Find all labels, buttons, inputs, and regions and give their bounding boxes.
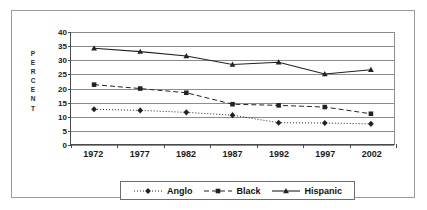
x-axis-tick-mark — [210, 144, 211, 148]
data-point-marker-square — [184, 90, 189, 95]
y-axis-tick-label: 20 — [58, 84, 67, 93]
data-point-marker-diamond — [137, 107, 143, 113]
x-axis-tick-label: 1982 — [176, 149, 196, 159]
x-axis-tick-mark — [350, 144, 351, 148]
data-point-marker-square — [138, 86, 143, 91]
y-axis-title-letter: E — [26, 85, 40, 94]
legend-marker-square-icon — [203, 186, 233, 196]
y-axis-title-letter: T — [26, 104, 40, 113]
data-point-marker-diamond — [230, 112, 236, 118]
legend-marker-triangle-icon — [271, 186, 301, 196]
x-axis-tick-mark — [117, 144, 118, 148]
x-axis-tick-label: 2002 — [362, 149, 382, 159]
chart-frame: PERCENT 0510152025303540 197219771982198… — [11, 10, 415, 198]
data-point-marker-triangle — [368, 67, 374, 72]
series-black — [92, 82, 373, 116]
legend-marker-diamond-icon — [133, 186, 163, 196]
chart-legend: AngloBlackHispanic — [120, 181, 355, 200]
y-axis-tick-label: 15 — [58, 98, 67, 107]
series-plot — [71, 32, 394, 144]
y-axis-title: PERCENT — [26, 49, 40, 113]
x-axis-tick-mark — [257, 144, 258, 148]
data-point-marker-square — [322, 105, 327, 110]
x-axis-tick-label: 1992 — [269, 149, 289, 159]
data-point-marker-square — [276, 103, 281, 108]
data-point-marker-diamond — [276, 120, 282, 126]
x-axis-tick-mark — [396, 144, 397, 148]
y-axis-tick-label: 10 — [58, 112, 67, 121]
legend-entry-anglo[interactable]: Anglo — [133, 186, 193, 196]
data-point-marker-diamond — [368, 121, 374, 127]
x-axis-tick-mark — [71, 144, 72, 148]
y-axis-title-letter: P — [26, 49, 40, 58]
series-line — [94, 85, 371, 114]
x-axis-tick-label: 1972 — [83, 149, 103, 159]
x-axis-tick-label: 1977 — [130, 149, 150, 159]
y-axis-title-letter: E — [26, 58, 40, 67]
series-anglo — [91, 106, 374, 127]
y-axis-tick-label: 0 — [63, 141, 67, 150]
data-point-marker-square — [369, 111, 374, 116]
data-point-marker-diamond — [91, 106, 97, 112]
data-point-marker-square — [215, 188, 220, 193]
series-hispanic — [91, 45, 374, 76]
y-axis-title-letter: N — [26, 94, 40, 103]
data-point-marker-diamond — [145, 187, 151, 193]
series-line — [94, 48, 371, 74]
y-axis-title-letter: R — [26, 67, 40, 76]
legend-entry-hispanic[interactable]: Hispanic — [271, 186, 343, 196]
data-point-marker-diamond — [183, 109, 189, 115]
x-axis-tick-label: 1997 — [315, 149, 335, 159]
y-axis-tick-label: 35 — [58, 42, 67, 51]
data-point-marker-diamond — [322, 120, 328, 126]
gridline — [71, 145, 394, 146]
data-point-marker-square — [230, 102, 235, 107]
y-axis-tick-label: 25 — [58, 70, 67, 79]
legend-entry-black[interactable]: Black — [203, 186, 261, 196]
y-axis-tick-label: 5 — [63, 126, 67, 135]
legend-label: Anglo — [167, 186, 193, 196]
y-axis-tick-label: 40 — [58, 28, 67, 37]
legend-label: Hispanic — [305, 186, 343, 196]
y-axis-tick-label: 30 — [58, 56, 67, 65]
y-axis-title-letter: C — [26, 76, 40, 85]
plot-area: 0510152025303540 — [70, 32, 395, 145]
x-axis-tick-label: 1987 — [222, 149, 242, 159]
x-axis-tick-mark — [303, 144, 304, 148]
x-axis-tick-mark — [164, 144, 165, 148]
data-point-marker-square — [92, 82, 97, 87]
legend-label: Black — [237, 186, 261, 196]
